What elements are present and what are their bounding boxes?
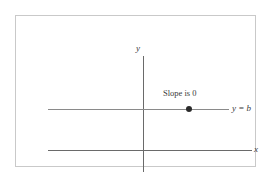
- y-axis-line: [143, 56, 144, 172]
- plot-frame: y x y = b Slope is 0: [15, 15, 256, 167]
- line-equation-label: y = b: [232, 104, 251, 113]
- figure-container: y x y = b Slope is 0: [0, 0, 268, 179]
- slope-annotation-label: Slope is 0: [163, 89, 197, 98]
- y-axis-label: y: [136, 44, 140, 53]
- x-axis-label: x: [254, 145, 258, 154]
- x-axis-line: [48, 150, 252, 151]
- line-y-equals-b: [48, 109, 229, 110]
- point-marker-on-line: [186, 106, 192, 112]
